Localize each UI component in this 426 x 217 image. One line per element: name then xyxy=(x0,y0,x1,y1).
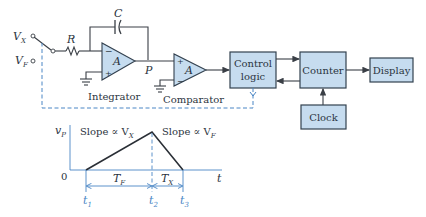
integrator-label: Integrator xyxy=(88,91,141,102)
control-logic-block: Control logic xyxy=(230,52,276,88)
counter-label: Counter xyxy=(302,65,343,76)
control-logic-label-1: Control xyxy=(234,58,272,69)
svg-text:−: − xyxy=(177,76,185,86)
t1-label: t1 xyxy=(83,194,92,209)
tx-label: TX xyxy=(161,172,174,187)
resistor: R xyxy=(55,33,102,55)
t3-label: t3 xyxy=(180,194,189,209)
counter-block: Counter xyxy=(300,52,346,88)
slope-vf-label: Slope ∝ VF xyxy=(162,126,217,140)
control-logic-label-2: logic xyxy=(241,71,266,82)
vf-terminal xyxy=(31,59,35,63)
vf-label: VF xyxy=(15,54,29,69)
vx-label: VX xyxy=(13,30,27,45)
ramp-waveform xyxy=(86,132,183,170)
dual-slope-adc-diagram: VX VF R C − + A Integrator P + xyxy=(0,0,426,217)
slope-vx-label: Slope ∝ VX xyxy=(80,126,135,140)
display-label: Display xyxy=(373,65,411,76)
svg-text:−: − xyxy=(105,46,113,56)
input-switch: VX VF xyxy=(13,30,55,69)
x-axis-label: t xyxy=(217,172,222,185)
clock-label: Clock xyxy=(309,112,338,123)
svg-text:+: + xyxy=(105,69,112,78)
comparator-amp-label: A xyxy=(184,64,193,77)
origin-label: 0 xyxy=(61,171,67,182)
comparator-label: Comparator xyxy=(163,94,224,105)
node-p-label: P xyxy=(144,64,153,77)
capacitor-label: C xyxy=(114,7,123,20)
tf-label: TF xyxy=(113,172,126,187)
t2-label: t2 xyxy=(149,194,158,209)
display-block: Display xyxy=(370,58,413,82)
integrator-opamp: − + A Integrator xyxy=(80,43,141,102)
comparator-opamp: + − A Comparator xyxy=(154,54,224,105)
integrator-amp-label: A xyxy=(112,55,121,68)
svg-text:+: + xyxy=(177,57,184,66)
resistor-label: R xyxy=(66,33,75,46)
y-axis-label: vP xyxy=(55,124,66,139)
switch-pivot xyxy=(51,49,55,53)
waveform-plot: vP 0 t Slope ∝ VX Slope ∝ VF TF TX t1 t2… xyxy=(55,124,222,209)
clock-block: Clock xyxy=(301,105,346,129)
